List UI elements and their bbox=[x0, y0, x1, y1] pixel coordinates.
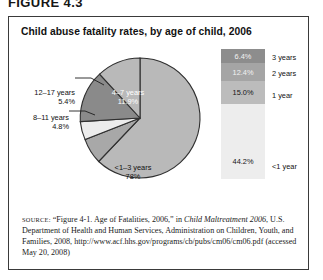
source-text-part1: “Figure 4-1. Age of Fatalities, 2006,” i… bbox=[51, 215, 184, 224]
breakdown-label-under-1-year: <1 year bbox=[272, 162, 297, 171]
pie-label-4-7-pct: 11.9% bbox=[118, 97, 138, 106]
breakdown-segment-3-years: 6.4% bbox=[221, 49, 265, 63]
source-note: SOURCE: “Figure 4-1. Age of Fatalities, … bbox=[22, 214, 299, 258]
pie-slices bbox=[80, 58, 200, 178]
figure-container: FIGURE 4.3 Child abuse fatality rates, b… bbox=[0, 0, 323, 280]
breakdown-label-3-years: 3 years bbox=[272, 53, 296, 62]
figure-number-header: FIGURE 4.3 bbox=[8, 0, 83, 10]
breakdown-stacked-bar: 6.4% 12.4% 15.0% 44.2% bbox=[221, 49, 265, 179]
pie-label-under-3-years: <1–3 years 78% bbox=[93, 163, 173, 182]
breakdown-segment-under-1-year: 44.2% bbox=[221, 104, 265, 179]
pie-label-8-11-name: 8–11 years bbox=[33, 113, 69, 122]
pie-label-12-17-pct: 5.4% bbox=[58, 97, 75, 106]
figure-title: Child abuse fatality rates, by age of ch… bbox=[21, 26, 252, 37]
breakdown-segment-2-years: 12.4% bbox=[221, 63, 265, 81]
pie-label-under-3-name: <1–3 years bbox=[115, 163, 152, 172]
pie-label-under-3-pct: 78% bbox=[126, 172, 141, 181]
source-prefix: SOURCE: bbox=[22, 216, 51, 223]
chart-plot-area: 12–17 years 5.4% 8–11 years 4.8% 4–7 yea… bbox=[9, 47, 310, 207]
figure-panel: Child abuse fatality rates, by age of ch… bbox=[8, 16, 309, 270]
pie-label-8-11-pct: 4.8% bbox=[52, 122, 69, 131]
breakdown-label-2-years: 2 years bbox=[272, 69, 296, 78]
pie-label-8-11-years: 8–11 years 4.8% bbox=[13, 113, 69, 132]
breakdown-segment-1-year: 15.0% bbox=[221, 81, 265, 104]
source-publication-title: Child Maltreatment 2006 bbox=[184, 215, 266, 224]
pie-label-12-17-name: 12–17 years bbox=[34, 88, 75, 97]
pie-label-4-7-name: 4–7 years bbox=[112, 88, 144, 97]
pie-label-4-7-years: 4–7 years 11.9% bbox=[101, 88, 155, 107]
breakdown-label-1-year: 1 year bbox=[272, 91, 293, 100]
breakdown-labels: 3 years 2 years 1 year <1 year bbox=[272, 49, 318, 179]
pie-label-12-17-years: 12–17 years 5.4% bbox=[13, 88, 75, 107]
